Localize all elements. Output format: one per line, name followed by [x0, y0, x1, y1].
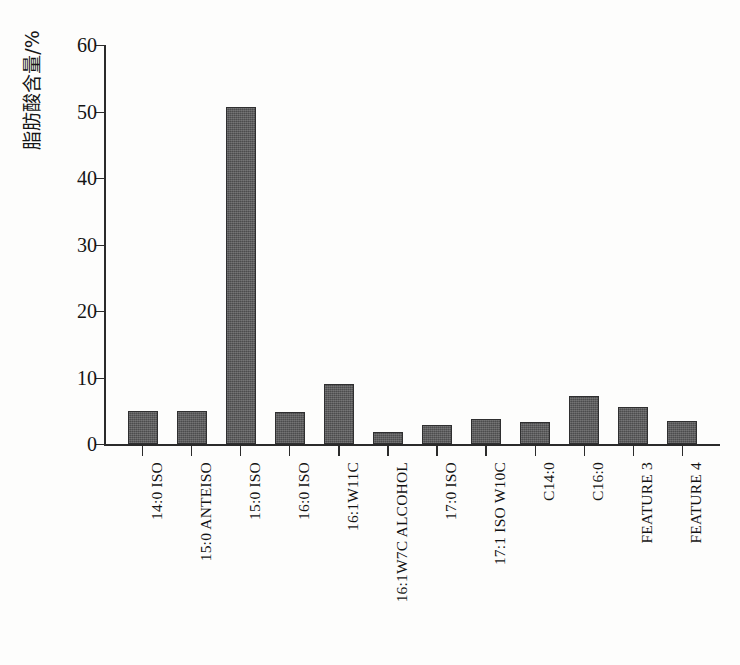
- x-tick-label: 15:0 ANTEISO: [198, 462, 214, 561]
- x-tick-mark: [289, 445, 290, 456]
- x-tick-mark: [191, 445, 192, 456]
- x-tick-mark: [682, 445, 683, 456]
- bar: [422, 425, 452, 444]
- y-tick-label: 0: [87, 434, 97, 454]
- bar: [373, 432, 403, 444]
- x-tick-label: 17:0 ISO: [443, 462, 459, 520]
- x-tick-mark: [633, 445, 634, 456]
- x-tick-label: FEATURE 4: [688, 462, 704, 543]
- bar: [177, 411, 207, 444]
- y-tick-label: 40: [77, 168, 97, 188]
- bar: [275, 412, 305, 444]
- bar: [128, 411, 158, 444]
- x-tick-label: FEATURE 3: [639, 462, 655, 543]
- x-tick-mark: [142, 445, 143, 456]
- y-tick-label: 20: [77, 301, 97, 321]
- bar: [667, 421, 697, 444]
- bar: [324, 384, 354, 445]
- bar: [520, 422, 550, 444]
- x-tick-mark: [584, 445, 585, 456]
- bar: [226, 107, 256, 444]
- bar: [471, 419, 501, 444]
- x-tick-mark: [436, 445, 437, 456]
- bar: [618, 407, 648, 444]
- x-tick-label: 16:1W7C ALCOHOL: [394, 462, 410, 602]
- x-tick-mark: [485, 445, 486, 456]
- bar: [569, 396, 599, 444]
- y-tick-label: 60: [77, 35, 97, 55]
- x-tick-mark: [387, 445, 388, 456]
- plot-area: 0102030405060 14:0 ISO15:0 ANTEISO15:0 I…: [104, 45, 720, 444]
- x-tick-mark: [240, 445, 241, 456]
- y-tick-label: 10: [77, 368, 97, 388]
- y-tick-label: 50: [77, 102, 97, 122]
- y-axis-title: 脂肪酸含量/%: [10, 0, 50, 190]
- x-tick-label: C14:0: [541, 462, 557, 501]
- x-tick-label: 16:1W11C: [345, 462, 361, 531]
- x-tick-label: 15:0 ISO: [247, 462, 263, 520]
- y-tick-label: 30: [77, 235, 97, 255]
- x-tick-label: 14:0 ISO: [149, 462, 165, 520]
- x-tick-label: 16:0 ISO: [296, 462, 312, 520]
- bar-chart-figure: 脂肪酸含量/% 0102030405060 14:0 ISO15:0 ANTEI…: [0, 0, 740, 665]
- x-axis-line: [104, 444, 720, 446]
- x-tick-mark: [535, 445, 536, 456]
- x-tick-label: C16:0: [590, 462, 606, 501]
- x-tick-label: 17:1 ISO W10C: [492, 462, 508, 565]
- y-axis-line: [104, 45, 106, 444]
- x-tick-mark: [338, 445, 339, 456]
